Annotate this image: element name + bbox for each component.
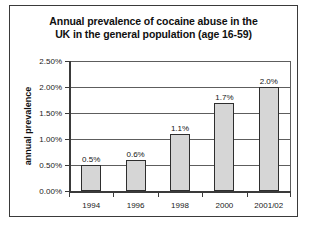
- x-axis-tick-label: 2000: [215, 201, 233, 210]
- bar: 0.6%: [126, 160, 146, 191]
- bar: 1.1%: [170, 134, 190, 191]
- y-axis-tick-label: 0.00%: [39, 187, 62, 196]
- y-axis-tick-label: 0.50%: [39, 161, 62, 170]
- x-axis-tick: [69, 192, 70, 197]
- x-axis-tick: [113, 192, 114, 197]
- x-axis-tick: [290, 192, 291, 197]
- x-axis-tick: [247, 192, 248, 197]
- y-axis-tick-label: 2.50%: [39, 57, 62, 66]
- bar-value-label: 1.1%: [171, 124, 189, 133]
- chart-title-line-2: UK in the general population (age 16-59): [10, 28, 297, 41]
- gridline: [69, 61, 291, 62]
- plot-right-border: [290, 61, 291, 191]
- y-axis-title: annual prevalence: [22, 61, 34, 191]
- x-axis-tick-label: 1998: [171, 201, 189, 210]
- x-axis-tick: [158, 192, 159, 197]
- bar-value-label: 2.0%: [260, 77, 278, 86]
- gridline: [69, 113, 291, 114]
- y-axis-line: [69, 61, 71, 192]
- y-axis-title-label: annual prevalence: [23, 87, 33, 166]
- x-axis-tick-label: 1996: [127, 201, 145, 210]
- x-axis-line: [69, 191, 291, 193]
- plot-area: 0.00%0.50%1.00%1.50%2.00%2.50% 0.5%0.6%1…: [69, 61, 291, 191]
- chart-title-line-1: Annual prevalence of cocaine abuse in th…: [10, 15, 297, 28]
- x-axis-tick: [202, 192, 203, 197]
- gridline: [69, 87, 291, 88]
- bar-value-label: 0.5%: [82, 155, 100, 164]
- chart-title: Annual prevalence of cocaine abuse in th…: [10, 15, 297, 41]
- y-axis-tick-label: 1.00%: [39, 135, 62, 144]
- bar: 0.5%: [81, 165, 101, 191]
- x-axis-tick-label: 2001/02: [254, 201, 283, 210]
- bar: 2.0%: [259, 87, 279, 191]
- y-axis-tick-label: 1.50%: [39, 109, 62, 118]
- bar: 1.7%: [214, 103, 234, 191]
- y-axis-tick-label: 2.00%: [39, 83, 62, 92]
- chart-frame: Annual prevalence of cocaine abuse in th…: [9, 5, 298, 217]
- x-axis-tick-label: 1994: [82, 201, 100, 210]
- bar-value-label: 0.6%: [126, 150, 144, 159]
- bar-value-label: 1.7%: [215, 93, 233, 102]
